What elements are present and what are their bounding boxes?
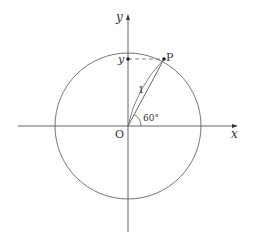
point-P-label: P: [166, 51, 174, 64]
unit-circle-diagram: y x O P y 1 60°: [0, 0, 254, 251]
y-axis-label: y: [115, 10, 123, 24]
y-projection-label: y: [117, 53, 125, 66]
y-axis-arrow-icon: [126, 14, 130, 20]
y-projection-marker: [126, 57, 130, 61]
origin-label: O: [115, 128, 124, 141]
angle-label: 60°: [143, 113, 159, 123]
x-axis-label: x: [231, 127, 238, 141]
angle-arc: [135, 115, 142, 126]
radius-label: 1: [138, 84, 144, 95]
